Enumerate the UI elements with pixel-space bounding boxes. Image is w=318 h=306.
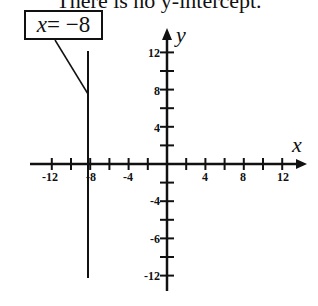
y-axis <box>162 28 172 291</box>
y-tick-label: 12 <box>148 46 160 60</box>
x-tick-label: -8 <box>86 170 96 184</box>
label-connector <box>55 40 88 94</box>
x-tick-label: 12 <box>277 170 289 184</box>
y-tick-label: -4 <box>150 194 160 208</box>
x-tick-label: -12 <box>42 170 58 184</box>
x-axis-label: x <box>291 132 302 157</box>
y-tick-label: 4 <box>154 121 160 135</box>
y-tick-label: -6 <box>150 232 160 246</box>
x-tick-label: 8 <box>240 170 246 184</box>
coordinate-plane: -12 -8 -4 4 8 12 12 8 4 -4 -6 -12 x y <box>0 0 318 306</box>
y-tick-label: -12 <box>144 269 160 283</box>
y-tick-label: 8 <box>154 84 160 98</box>
x-tick-label: -4 <box>123 170 133 184</box>
y-axis-label: y <box>174 22 186 47</box>
x-tick-label: 4 <box>202 170 208 184</box>
